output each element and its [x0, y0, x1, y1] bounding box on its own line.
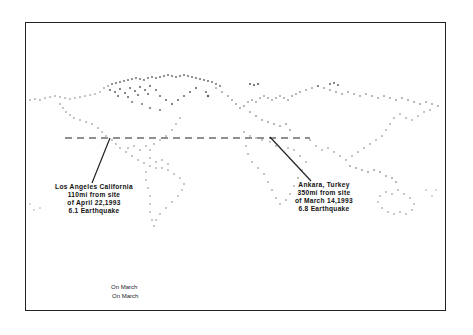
footer-note: On March	[112, 292, 138, 301]
annotation-line: of March 14,1993	[295, 197, 353, 205]
annotation-line: 350mi from site	[295, 189, 353, 197]
annotation-line: 6.1 Earthquake	[55, 207, 133, 215]
annotation-line: 110mi from site	[55, 191, 133, 199]
los-angeles-annotation: Los Angeles California 110mi from site o…	[55, 183, 133, 215]
annotation-line: 6.8 Earthquake	[295, 205, 353, 213]
annotation-line: of April 22,1993	[55, 199, 133, 207]
annotation-line: Los Angeles California	[55, 183, 133, 191]
footer-note: On March	[111, 283, 137, 292]
world-map	[0, 0, 473, 335]
ankara-annotation: Ankara, Turkey 350mi from site of March …	[295, 181, 353, 213]
los-angeles-leader-line	[92, 138, 110, 183]
annotation-line: Ankara, Turkey	[295, 181, 353, 189]
ankara-leader-line	[270, 137, 311, 181]
